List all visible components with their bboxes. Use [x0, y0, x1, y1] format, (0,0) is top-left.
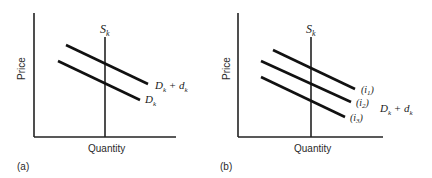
y-axis-label: Price: [16, 57, 27, 80]
x-axis-label: Quantity: [88, 143, 125, 154]
panel-caption: (a): [17, 161, 29, 172]
x-axis-label: Quantity: [294, 143, 331, 154]
demand-curve-i3: [261, 77, 345, 117]
demand-group-label: Dk + dk: [379, 102, 414, 117]
demand-curve-shifted: [66, 45, 148, 84]
curve-label-i1: (i1): [361, 84, 375, 97]
panel-caption: (b): [220, 161, 232, 172]
demand-curve-i1: [273, 50, 355, 89]
panel-b: Sk (i1) (i2) (i3) Dk + dk Price Quantity…: [220, 13, 414, 172]
figure: Sk Dk + dk Dk Price Quantity (a) Sk (i1)…: [0, 0, 432, 178]
curve-label-i2: (i2): [356, 97, 370, 110]
demand-shifted-label: Dk + dk: [154, 79, 189, 94]
demand-label: Dk: [144, 93, 157, 108]
demand-curve: [58, 61, 140, 100]
supply-label: Sk: [306, 22, 316, 38]
panel-a: Sk Dk + dk Dk Price Quantity (a): [16, 13, 189, 172]
y-axis-label: Price: [221, 57, 232, 80]
curve-label-i3: (i3): [350, 112, 364, 125]
supply-label: Sk: [100, 22, 110, 38]
